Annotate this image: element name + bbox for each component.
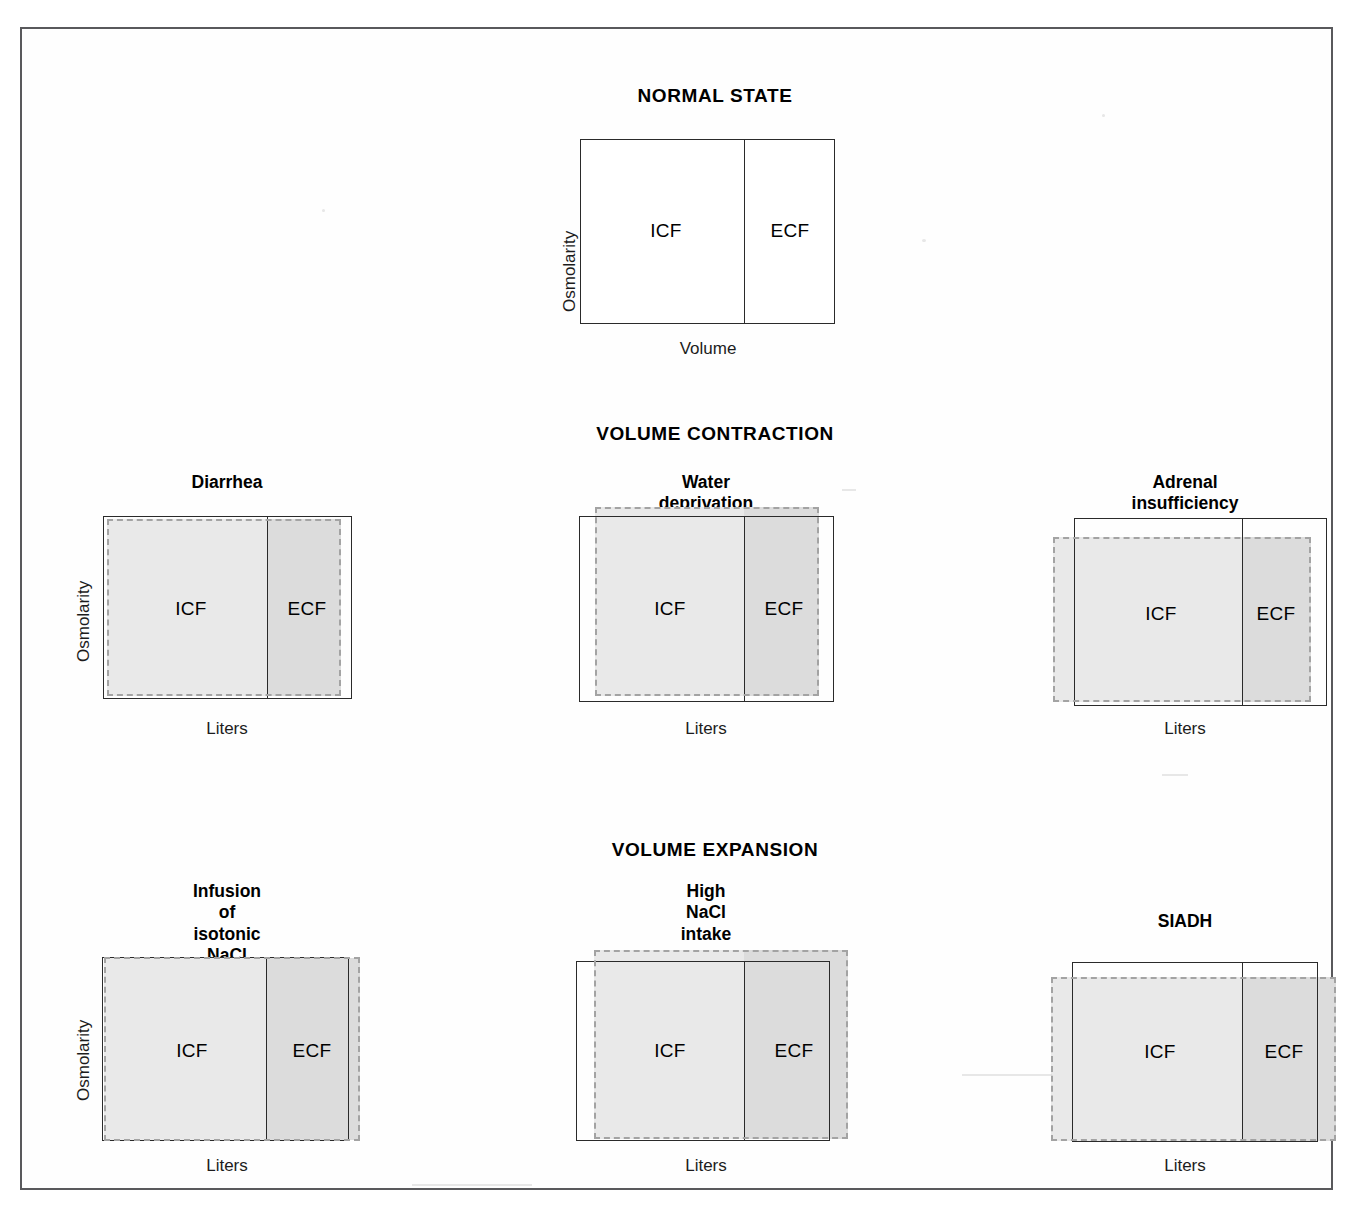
ecf-label-isotonic-nacl: ECF [293, 1040, 332, 1062]
icf-ecf-divider-normal [744, 139, 745, 324]
ecf-label-adrenal-insufficiency: ECF [1257, 603, 1296, 625]
icf-label-diarrhea: ICF [175, 598, 207, 620]
icf-label-adrenal-insufficiency: ICF [1145, 603, 1177, 625]
icf-label-isotonic-nacl: ICF [176, 1040, 208, 1062]
x-axis-label-diarrhea: Liters [206, 719, 248, 739]
x-axis-label-normal: Volume [680, 339, 737, 359]
section-heading-volume-expansion: VOLUME EXPANSION [612, 839, 819, 861]
ecf-label-siadh: ECF [1265, 1041, 1304, 1063]
panel-title-isotonic-nacl: Infusion of isotonic NaCl [193, 881, 261, 966]
icf-label-siadh: ICF [1144, 1041, 1176, 1063]
x-axis-label-water-deprivation: Liters [685, 719, 727, 739]
ecf-label-diarrhea: ECF [288, 598, 327, 620]
panel-title-adrenal-insufficiency: Adrenal insufficiency [1132, 472, 1239, 515]
scan-artifact [922, 239, 926, 242]
x-axis-label-siadh: Liters [1164, 1156, 1206, 1176]
x-axis-label-adrenal-insufficiency: Liters [1164, 719, 1206, 739]
y-axis-label-isotonic-nacl: Osmolarity [74, 1020, 94, 1101]
icf-label-high-nacl-intake: ICF [654, 1040, 686, 1062]
scan-artifact [1162, 774, 1188, 776]
ecf-label-water-deprivation: ECF [765, 598, 804, 620]
section-heading-volume-contraction: VOLUME CONTRACTION [596, 423, 834, 445]
panel-title-high-nacl-intake: High NaCl intake [681, 881, 732, 945]
figure-frame: NORMAL STATE Osmolarity ICF ECF Volume V… [20, 27, 1333, 1190]
scan-artifact [842, 489, 856, 491]
scan-artifact [962, 1074, 1052, 1076]
y-axis-label-normal: Osmolarity [560, 231, 580, 312]
scan-artifact [1102, 114, 1105, 117]
x-axis-label-high-nacl-intake: Liters [685, 1156, 727, 1176]
icf-label-water-deprivation: ICF [654, 598, 686, 620]
ecf-label-high-nacl-intake: ECF [775, 1040, 814, 1062]
scan-artifact [322, 209, 325, 212]
scan-artifact [412, 1184, 532, 1186]
y-axis-label-diarrhea: Osmolarity [74, 581, 94, 662]
x-axis-label-isotonic-nacl: Liters [206, 1156, 248, 1176]
section-heading-normal-state: NORMAL STATE [638, 85, 793, 107]
icf-label-normal: ICF [650, 220, 682, 242]
ecf-label-normal: ECF [771, 220, 810, 242]
panel-title-diarrhea: Diarrhea [191, 472, 262, 493]
panel-title-siadh: SIADH [1158, 911, 1212, 932]
